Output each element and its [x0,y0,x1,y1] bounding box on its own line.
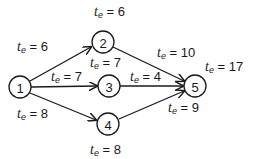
node-1-label: 1 [16,81,23,96]
label-edge-2-5: te = 10 [157,46,195,61]
label-eq: = 4 [139,69,161,84]
label-edge-1-2: te = 6 [17,40,48,55]
node-2-label: 2 [99,36,106,51]
label-eq: = 8 [26,106,48,121]
label-node-5-above: te = 17 [205,60,243,75]
label-node-5-below: te = 9 [168,101,199,116]
edge-1-3 [31,86,97,87]
label-eq: = 9 [177,100,199,115]
label-eq: = 6 [103,4,125,19]
label-eq: = 10 [166,45,195,60]
pert-network-diagram: 1 2 3 4 5 [0,0,254,159]
label-top: te = 6 [94,5,125,20]
label-edge-3-5: te = 4 [130,70,161,85]
label-eq: = 6 [26,39,48,54]
node-4-label: 4 [104,118,111,133]
node-5-label: 5 [191,80,198,95]
node-3-label: 3 [105,80,112,95]
label-node-2-below: te = 7 [90,56,121,71]
label-edge-1-3: te = 7 [51,70,82,85]
label-eq: = 7 [60,69,82,84]
label-node-1-below: te = 8 [17,107,48,122]
label-eq: = 8 [99,142,121,157]
label-eq: = 7 [99,55,121,70]
label-eq: = 17 [214,59,243,74]
label-node-4-below: te = 8 [90,143,121,158]
